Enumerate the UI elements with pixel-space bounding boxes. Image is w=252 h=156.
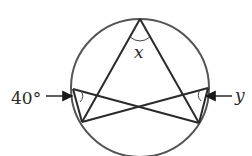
- label-y: y: [234, 85, 245, 105]
- chord-top-to-bottom-left: [82, 19, 140, 122]
- label-x: x: [134, 42, 144, 62]
- chord-top-to-bottom-right: [140, 19, 199, 123]
- label-40-degrees: 40°: [11, 88, 41, 108]
- angle-arc-x: [130, 37, 150, 41]
- circle: [71, 19, 209, 156]
- angle-arc-y: [198, 90, 201, 101]
- angle-arc-40: [80, 91, 83, 102]
- geometry-diagram: x 40° y: [0, 0, 252, 156]
